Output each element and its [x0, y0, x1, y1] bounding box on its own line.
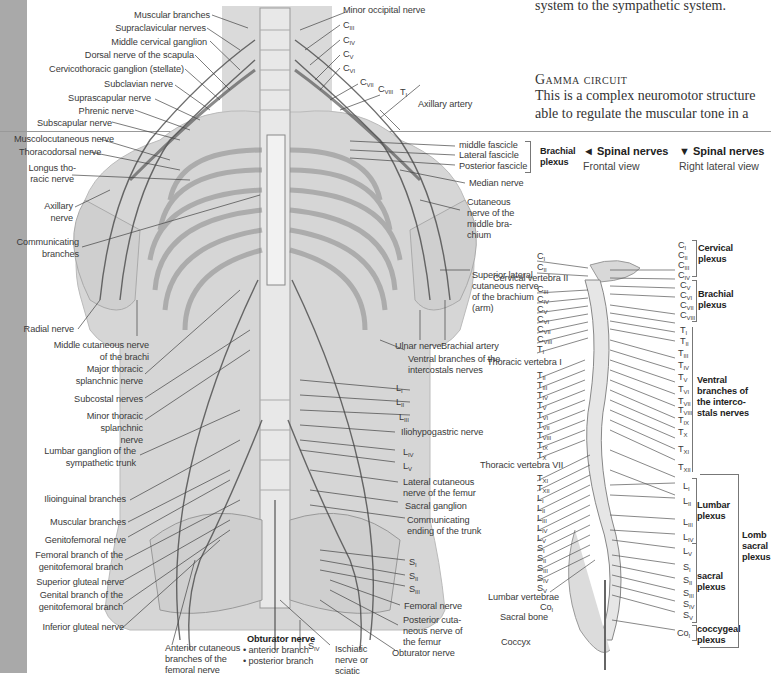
- lat-r-lomb-sacral-3: plexus: [742, 552, 771, 563]
- label-middle-cutaneous-nerve-1: Middle cutaneous nerve: [54, 340, 149, 351]
- label-obturator-nerve-right: Obturator nerve: [392, 648, 455, 659]
- label-subscapular-nerve: Subscapular nerve: [37, 118, 112, 129]
- label-cutaneous-middle-2: nerve of the: [467, 208, 514, 219]
- label-cutaneous-middle-4: chium: [467, 230, 491, 241]
- label-lateral-cutaneous-1: Lateral cutaneous: [403, 477, 474, 488]
- label-thoracodorsal-nerve: Thoracodorsal nerve: [19, 147, 101, 158]
- label-obturator-nerve-title: Obturator nerve: [247, 634, 315, 645]
- header-lateral-view-title: ▼ Spinal nerves: [679, 145, 765, 157]
- label-subclavian-nerve: Subclavian nerve: [104, 79, 173, 90]
- label-brachial-plexus-frontal-2: plexus: [540, 157, 569, 168]
- label-obturator-anterior: • anterior branch: [243, 645, 309, 656]
- label-muscular-branches-top: Muscular branches: [134, 10, 210, 21]
- label-radial-nerve: Radial nerve: [24, 324, 74, 335]
- label-genitofemoral-nerve: Genitofemoral nerve: [45, 535, 126, 546]
- lat-r-l-ii: LII: [683, 496, 691, 510]
- cervical-plexus-bracket: [692, 240, 697, 277]
- header-lateral-view-subtitle: Right lateral view: [679, 160, 759, 172]
- label-c-v: CV: [343, 49, 353, 63]
- label-ventral-branches-frontal-2: intercostals nerves: [408, 365, 483, 376]
- label-lumbar-ganglion-1: Lumbar ganglion of the: [44, 446, 136, 457]
- label-superior-gluteal-nerve: Superior gluteal nerve: [36, 577, 124, 588]
- label-communicating-branches-2: branches: [42, 249, 79, 260]
- lat-r-ventral-branches-2: branches of: [697, 386, 748, 397]
- lat-r-l-i: LI: [683, 481, 690, 495]
- label-genital-branch-1: Genital branch of the: [40, 590, 123, 601]
- label-dorsal-nerve-scapula: Dorsal nerve of the scapula: [85, 50, 194, 61]
- label-l-iii: LIII: [399, 412, 409, 426]
- label-iliohypogastric-nerve: Iliohypogastric nerve: [401, 427, 483, 438]
- header-frontal-view-title: ◄ Spinal nerves: [583, 145, 669, 157]
- label-c-iv: CIV: [343, 35, 355, 49]
- lat-r-s-ii: SII: [683, 575, 692, 589]
- lomb-sacral-plexus-bracket: [700, 474, 739, 648]
- label-minor-thoracic-splanchnic-3: nerve: [121, 435, 143, 446]
- label-anterior-cutaneous-3: femoral nerve: [165, 665, 220, 676]
- label-suprascapular-nerve: Suprascapular nerve: [68, 93, 151, 104]
- lat-r-co-i: CoI: [677, 628, 690, 642]
- label-femoral-nerve: Femoral nerve: [404, 601, 462, 612]
- header-frontal-view-subtitle: Frontal view: [583, 160, 640, 172]
- lat-r-brachial-plexus-2: plexus: [698, 300, 727, 311]
- lat-r-lomb-sacral-2: sacral: [742, 541, 768, 552]
- label-s-ii-frontal: SII: [409, 571, 418, 585]
- lat-r-cervical-plexus-2: plexus: [698, 254, 727, 265]
- label-posterior-fascicle: Posterior fascicle: [459, 161, 527, 172]
- brachial-fascicle-bracket: [525, 141, 531, 173]
- label-cutaneous-middle-1: Cutaneous: [467, 197, 511, 208]
- label-ischiatic-1: Ischiatic: [335, 644, 367, 655]
- lat-r-lomb-sacral-1: Lomb: [742, 530, 767, 541]
- label-posterior-cutaneous-3: the femur: [403, 637, 441, 648]
- label-l-i: LI: [396, 383, 403, 397]
- label-lateral-fascicle: Lateral fascicle: [459, 150, 519, 161]
- label-muscular-branches-lower: Muscular branches: [50, 517, 126, 528]
- label-obturator-posterior: • posterior branch: [243, 656, 313, 667]
- label-major-thoracic-splanchnic-1: Major thoracic: [87, 364, 143, 375]
- label-superior-lateral-3: of the brachium: [472, 292, 534, 303]
- lat-r-ventral-branches-4: stals nerves: [697, 408, 749, 419]
- label-minor-thoracic-splanchnic-1: Minor thoracic: [87, 411, 143, 422]
- lat-label-thoracic-vertebra-vii: Thoracic vertebra VII: [480, 460, 563, 471]
- label-communicating-ending-1: Communicating: [407, 515, 470, 526]
- label-c-vii: CVII: [360, 77, 374, 91]
- label-ischiatic-3: sciatic: [335, 666, 360, 677]
- label-genital-branch-2: genitofemoral branch: [39, 602, 123, 613]
- label-s-iv: SIV: [308, 641, 320, 655]
- label-c-vi: CVI: [343, 63, 355, 77]
- label-s-iii-frontal: SIII: [409, 584, 420, 598]
- label-axillary-nerve-2: nerve: [51, 213, 73, 224]
- label-middle-fascicle: middle fascicle: [459, 140, 518, 151]
- label-inferior-gluteal-nerve: Inferior gluteal nerve: [42, 622, 124, 633]
- lat-label-sacral-bone: Sacral bone: [500, 612, 548, 623]
- lat-r-brachial-plexus-1: Brachial: [698, 289, 733, 300]
- label-major-thoracic-splanchnic-2: splanchnic nerve: [76, 376, 143, 387]
- lat-label-thoracic-vertebra-i: Thoracic vertebra I: [487, 357, 562, 368]
- label-ischiatic-2: nerve or: [335, 655, 368, 666]
- label-minor-thoracic-splanchnic-2: splanchnic: [101, 423, 143, 434]
- label-ulnar-nerve: Ulnar nerve: [395, 341, 441, 352]
- lat-r-t-xii: TXII: [678, 462, 691, 476]
- label-posterior-cutaneous-1: Posterior cuta-: [403, 615, 461, 626]
- label-minor-occipital-nerve: Minor occipital nerve: [343, 5, 425, 16]
- label-longus-thoracic-2: racic nerve: [30, 174, 74, 185]
- label-middle-cervical-ganglion: Middle cervical ganglion: [111, 37, 207, 48]
- label-femoral-branch-2: genitofemoral branch: [39, 562, 123, 573]
- label-femoral-branch-1: Femoral branch of the: [35, 550, 123, 561]
- brachial-plexus-bracket: [692, 280, 697, 322]
- label-anterior-cutaneous-2: branches of the: [165, 654, 227, 665]
- lat-r-s-i: SI: [683, 562, 691, 576]
- lat-label-lumbar-vertebrae: Lumbar vertebrae: [488, 592, 559, 603]
- label-supraclavicular-nerves: Supraclavicular nerves: [115, 23, 206, 34]
- label-anterior-cutaneous-1: Anterior cutaneous: [165, 643, 240, 654]
- label-muscolocutaneous-nerve: Muscolocutaneous nerve: [14, 134, 114, 145]
- label-median-nerve: Median nerve: [469, 178, 523, 189]
- label-axillary-artery: Axillary artery: [418, 99, 472, 110]
- label-l-iv: LIV: [403, 447, 414, 461]
- label-superior-lateral-4: (arm): [472, 303, 493, 314]
- label-brachial-plexus-frontal-1: Brachial: [540, 146, 575, 157]
- label-axillary-nerve-1: Axillary: [44, 201, 73, 212]
- label-cutaneous-middle-3: middle bra-: [467, 219, 512, 230]
- label-c-iii: CIII: [343, 20, 354, 34]
- label-sacral-ganglion: Sacral ganglion: [405, 501, 467, 512]
- label-cervicothoracic-ganglion: Cervicothoracic ganglion (stellate): [49, 64, 184, 75]
